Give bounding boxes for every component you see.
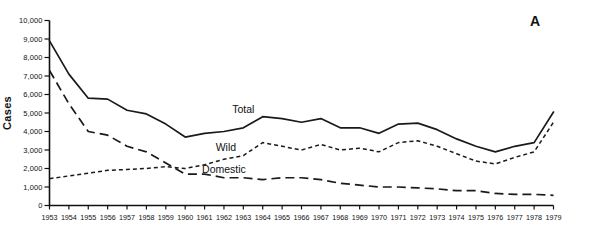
rabies-cases-line-chart: 01,0002,0003,0004,0005,0006,0007,0008,00… bbox=[0, 0, 593, 241]
y-tick-label: 5,000 bbox=[23, 109, 42, 118]
series-line-wild bbox=[50, 122, 554, 178]
y-tick-label: 3,000 bbox=[23, 146, 42, 155]
y-tick-label: 4,000 bbox=[23, 127, 42, 136]
x-tick-label: 1968 bbox=[332, 213, 348, 222]
y-tick-label: 10,000 bbox=[19, 16, 43, 25]
x-tick-label: 1974 bbox=[449, 213, 465, 222]
y-tick-label: 9,000 bbox=[23, 35, 42, 44]
y-tick-label: 1,000 bbox=[23, 183, 42, 192]
x-tick-label: 1972 bbox=[410, 213, 426, 222]
x-tick-label: 1971 bbox=[390, 213, 406, 222]
x-axis-tick-labels: 1953195419551956195719581959196019611962… bbox=[42, 213, 562, 222]
y-tick-label: 6,000 bbox=[23, 90, 42, 99]
x-tick-label: 1956 bbox=[100, 213, 116, 222]
x-tick-label: 1969 bbox=[352, 213, 368, 222]
series-inline-labels: TotalWildDomestic bbox=[202, 103, 254, 175]
y-tick-label: 0 bbox=[38, 201, 42, 210]
x-tick-label: 1966 bbox=[294, 213, 310, 222]
x-tick-label: 1963 bbox=[235, 213, 251, 222]
x-tick-label: 1979 bbox=[546, 213, 562, 222]
x-tick-label: 1975 bbox=[468, 213, 484, 222]
x-tick-label: 1973 bbox=[429, 213, 445, 222]
series-label-total: Total bbox=[232, 103, 254, 115]
y-axis-title: Cases bbox=[1, 96, 13, 130]
y-tick-label: 7,000 bbox=[23, 72, 42, 81]
y-tick-label: 2,000 bbox=[23, 164, 42, 173]
x-tick-label: 1958 bbox=[138, 213, 154, 222]
series-label-domestic: Domestic bbox=[202, 163, 246, 175]
x-tick-label: 1977 bbox=[507, 213, 523, 222]
x-tick-label: 1957 bbox=[119, 213, 135, 222]
figure-panel-a: 01,0002,0003,0004,0005,0006,0007,0008,00… bbox=[0, 0, 593, 241]
series-line-total bbox=[50, 41, 554, 152]
x-tick-label: 1955 bbox=[80, 213, 96, 222]
x-tick-label: 1954 bbox=[61, 213, 77, 222]
x-tick-label: 1960 bbox=[177, 213, 193, 222]
x-tick-label: 1962 bbox=[216, 213, 232, 222]
series-line-domestic bbox=[50, 70, 554, 195]
x-tick-label: 1961 bbox=[197, 213, 213, 222]
panel-label: A bbox=[530, 13, 540, 29]
x-tick-label: 1976 bbox=[487, 213, 503, 222]
y-tick-label: 8,000 bbox=[23, 53, 42, 62]
data-series-lines bbox=[50, 41, 554, 195]
y-axis-tick-labels: 01,0002,0003,0004,0005,0006,0007,0008,00… bbox=[19, 16, 43, 210]
x-tick-label: 1965 bbox=[274, 213, 290, 222]
x-tick-label: 1953 bbox=[42, 213, 58, 222]
x-tick-label: 1959 bbox=[158, 213, 174, 222]
x-tick-label: 1978 bbox=[526, 213, 542, 222]
x-tick-label: 1967 bbox=[313, 213, 329, 222]
x-tick-label: 1970 bbox=[371, 213, 387, 222]
series-label-wild: Wild bbox=[216, 141, 237, 153]
x-tick-label: 1964 bbox=[255, 213, 271, 222]
